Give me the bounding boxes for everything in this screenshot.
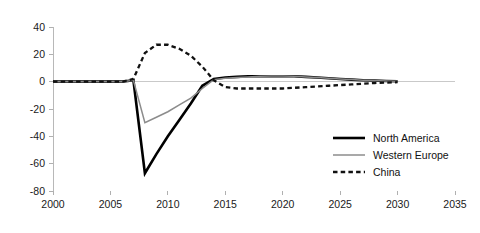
legend-label: North America [373,132,440,144]
x-tick-label: 2020 [271,198,295,210]
y-tick-label: -20 [30,103,45,115]
x-tick-label: 2030 [386,198,410,210]
x-tick-label: 2000 [41,198,65,210]
x-tick-label: 2035 [443,198,467,210]
y-tick-label: -80 [30,185,45,197]
legend-label: Western Europe [373,149,449,161]
x-tick-label: 2005 [99,198,123,210]
chart-container: 40200-20-40-60-80 2000200520102015202020… [0,0,480,233]
line-chart: 40200-20-40-60-80 2000200520102015202020… [0,0,480,233]
x-tick-label: 2015 [214,198,238,210]
y-tick-label: 0 [39,75,45,87]
legend-label: China [373,166,401,178]
y-tick-label: -60 [30,157,45,169]
y-tick-label: 40 [33,21,45,33]
y-tick-label: 20 [33,48,45,60]
x-tick-label: 2025 [328,198,352,210]
y-tick-label: -40 [30,130,45,142]
x-tick-label: 2010 [156,198,180,210]
